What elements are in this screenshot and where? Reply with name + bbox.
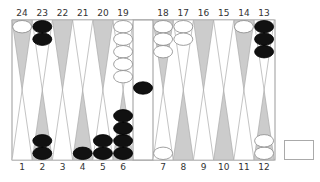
point-label-18: 18	[157, 8, 169, 18]
white-checker[interactable]	[114, 33, 133, 45]
black-checker[interactable]	[114, 110, 133, 122]
point-label-3: 3	[60, 162, 66, 172]
point-label-16: 16	[198, 8, 210, 18]
black-checker[interactable]	[255, 46, 274, 58]
point-label-9: 9	[201, 162, 207, 172]
black-checker[interactable]	[114, 135, 133, 147]
black-checker[interactable]	[33, 135, 52, 147]
point-label-13: 13	[258, 8, 269, 18]
point-label-8: 8	[180, 162, 186, 172]
black-checker[interactable]	[33, 33, 52, 45]
white-checker[interactable]	[174, 33, 193, 45]
white-checker[interactable]	[234, 21, 253, 33]
point-label-14: 14	[238, 8, 250, 18]
point-label-6: 6	[120, 162, 126, 172]
white-checker[interactable]	[114, 71, 133, 83]
point-label-22: 22	[57, 8, 68, 18]
point-label-11: 11	[238, 162, 249, 172]
white-checker[interactable]	[154, 46, 173, 58]
point-label-7: 7	[160, 162, 166, 172]
backgammon-board: 242322212019181716151413123456789101112	[0, 0, 320, 182]
black-checker[interactable]	[93, 147, 112, 159]
point-label-10: 10	[218, 162, 230, 172]
point-label-5: 5	[100, 162, 106, 172]
point-label-17: 17	[178, 8, 189, 18]
white-checker[interactable]	[255, 147, 274, 159]
point-label-20: 20	[97, 8, 109, 18]
black-checker[interactable]	[255, 21, 274, 33]
point-label-24: 24	[16, 8, 28, 18]
point-label-21: 21	[77, 8, 88, 18]
white-checker[interactable]	[114, 46, 133, 58]
point-label-1: 1	[19, 162, 25, 172]
black-checker[interactable]	[73, 147, 92, 159]
black-checker-on-bar[interactable]	[134, 82, 153, 94]
black-checker[interactable]	[114, 122, 133, 134]
point-label-2: 2	[39, 162, 45, 172]
point-label-15: 15	[218, 8, 229, 18]
black-checker[interactable]	[255, 33, 274, 45]
point-label-19: 19	[117, 8, 129, 18]
point-label-4: 4	[80, 162, 86, 172]
white-checker[interactable]	[154, 147, 173, 159]
doubling-cube[interactable]	[284, 140, 314, 160]
black-checker[interactable]	[33, 147, 52, 159]
white-checker[interactable]	[154, 33, 173, 45]
white-checker[interactable]	[174, 21, 193, 33]
point-label-23: 23	[37, 8, 48, 18]
point-label-12: 12	[258, 162, 269, 172]
black-checker[interactable]	[93, 135, 112, 147]
white-checker[interactable]	[114, 58, 133, 70]
white-checker[interactable]	[13, 21, 32, 33]
white-checker[interactable]	[154, 21, 173, 33]
black-checker[interactable]	[114, 147, 133, 159]
black-checker[interactable]	[33, 21, 52, 33]
white-checker[interactable]	[255, 135, 274, 147]
white-checker[interactable]	[114, 21, 133, 33]
